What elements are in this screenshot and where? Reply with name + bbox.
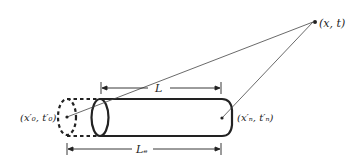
worldtube-diagram: (x, t) (x′₀, t′₀) (x′ₙ, t′ₙ) L Lₑ [0, 0, 360, 166]
label-length-Le: Lₑ [135, 143, 148, 156]
label-length-L: L [154, 82, 162, 95]
label-point-right: (x′ₙ, t′ₙ) [237, 112, 274, 123]
label-point-xt: (x, t) [319, 17, 345, 30]
light-rays [67, 22, 313, 118]
tube [92, 99, 233, 136]
label-point-left: (x′₀, t′₀) [20, 112, 56, 123]
